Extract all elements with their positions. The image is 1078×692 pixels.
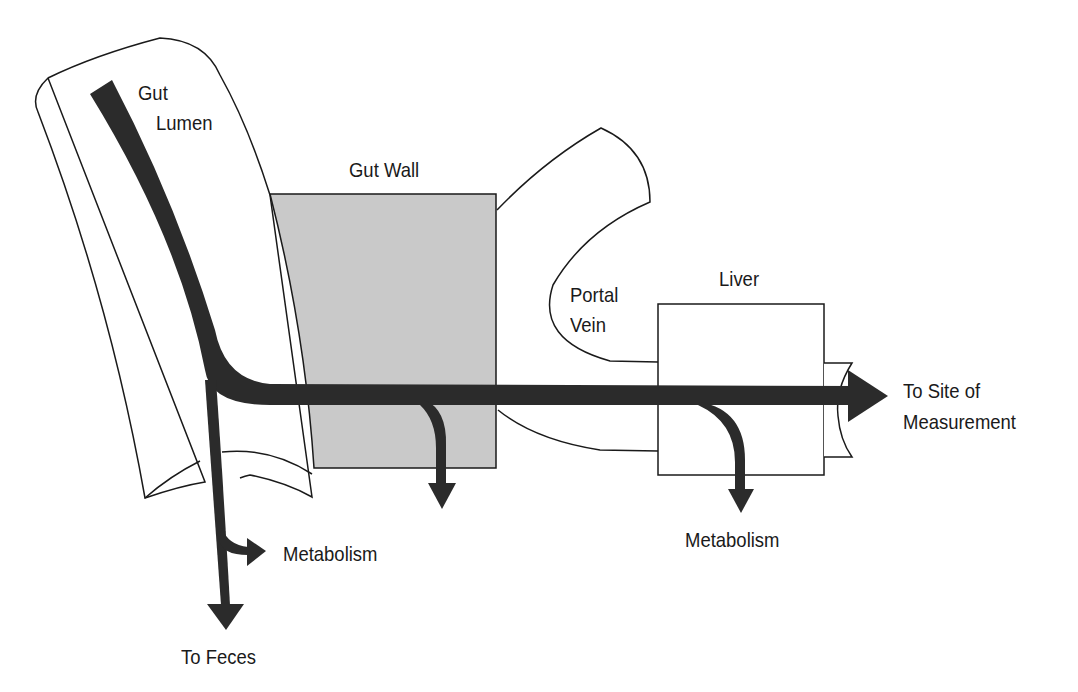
gut-wall-block	[270, 194, 496, 468]
feces-label: To Feces	[181, 644, 256, 670]
hepatic-vein-stub	[824, 363, 852, 457]
arrow-lumen-metabolism	[247, 538, 266, 566]
arrow-to-site	[848, 370, 888, 422]
gut-wall-label: Gut Wall	[349, 157, 419, 183]
gut-lumen-label-1: Gut	[138, 80, 168, 106]
arrow-liver-metabolism	[728, 489, 754, 513]
liver-label: Liver	[719, 266, 759, 292]
site-label-2: Measurement	[903, 409, 1016, 435]
liver-metabolism-label: Metabolism	[685, 527, 779, 553]
portal-vein-label-1: Portal	[570, 282, 618, 308]
arrow-to-feces	[207, 604, 244, 630]
gut-lumen-label-2: Lumen	[156, 110, 213, 136]
lumen-metabolism-label: Metabolism	[283, 541, 377, 567]
portal-vein-label-2: Vein	[570, 312, 606, 338]
site-label-1: To Site of	[903, 378, 980, 404]
arrow-gutwall-metabolism	[428, 483, 456, 509]
gut-lumen-shape	[36, 38, 312, 498]
